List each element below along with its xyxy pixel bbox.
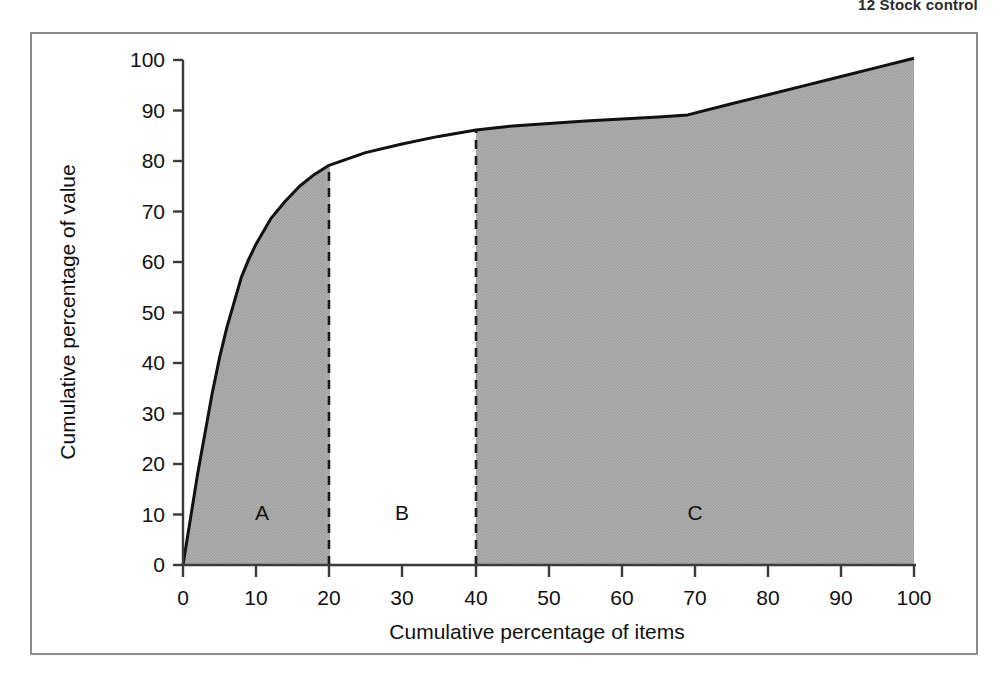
y-tick-label: 70 [142, 200, 165, 223]
x-tick-label: 80 [756, 586, 779, 609]
x-tick-label: 20 [317, 586, 340, 609]
x-tick-label: 70 [683, 586, 706, 609]
y-tick-label: 90 [142, 99, 165, 122]
y-tick-label: 0 [153, 553, 165, 576]
x-tick-label: 90 [829, 586, 852, 609]
x-tick-label: 40 [464, 586, 487, 609]
y-tick-label: 100 [130, 48, 165, 71]
figure-frame: 0 10 20 30 40 50 60 70 80 90 100 0 10 20… [30, 32, 978, 655]
y-tick-label: 20 [142, 452, 165, 475]
y-tick-label: 30 [142, 402, 165, 425]
x-tick-label: 10 [244, 586, 267, 609]
x-tick-label: 50 [537, 586, 560, 609]
y-tick-label: 40 [142, 351, 165, 374]
zone-label-a: A [255, 501, 269, 524]
x-tick-label: 30 [390, 586, 413, 609]
x-tick-label: 0 [177, 586, 189, 609]
y-axis-title: Cumulative percentage of value [56, 164, 79, 459]
zone-label-b: B [395, 501, 409, 524]
y-tick-label: 60 [142, 250, 165, 273]
y-axis-tick-labels: 0 10 20 30 40 50 60 70 80 90 100 [130, 48, 165, 576]
x-axis-tick-labels: 0 10 20 30 40 50 60 70 80 90 100 [177, 586, 931, 609]
zone-label-c: C [687, 501, 702, 524]
x-tick-label: 100 [896, 586, 931, 609]
y-tick-label: 80 [142, 149, 165, 172]
x-axis-title: Cumulative percentage of items [389, 620, 684, 643]
abc-analysis-pareto-chart: 0 10 20 30 40 50 60 70 80 90 100 0 10 20… [32, 34, 976, 653]
zone-c-shading [476, 58, 914, 565]
x-axis-ticks [183, 565, 914, 577]
y-axis-ticks [173, 60, 183, 565]
running-head: 12 Stock control [0, 0, 978, 13]
y-tick-label: 10 [142, 503, 165, 526]
y-tick-label: 50 [142, 301, 165, 324]
x-tick-label: 60 [610, 586, 633, 609]
